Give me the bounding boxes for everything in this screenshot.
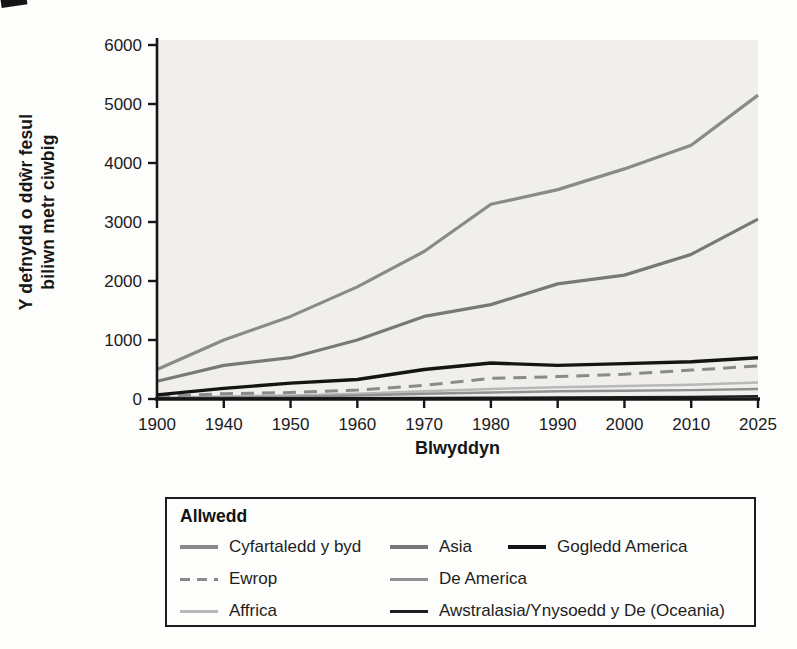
line-swatch-asia — [390, 545, 428, 548]
x-tick-label: 2025 — [739, 415, 777, 434]
x-tick-label: 1950 — [272, 415, 310, 434]
legend-item-asia: Asia — [390, 537, 508, 557]
y-tick-label: 3000 — [104, 213, 142, 232]
legend-label: Affrica — [229, 601, 277, 621]
legend-label: De America — [439, 569, 527, 589]
y-tick-label: 1000 — [104, 331, 142, 350]
line-swatch-cyfartaledd-y-byd — [180, 545, 218, 548]
legend-item-gogledd-america: Gogledd America — [508, 537, 742, 557]
x-tick-label: 2010 — [672, 415, 710, 434]
scanned-figure-page: Y defnydd o ddŵr fesul biliwn metr ciwbi… — [0, 0, 797, 649]
legend-label: Asia — [439, 537, 472, 557]
line-swatch-ewrop — [180, 578, 218, 581]
x-tick-label: 1990 — [539, 415, 577, 434]
line-swatch-awstralasia — [390, 610, 428, 613]
line-swatch-de-america — [390, 578, 428, 581]
legend-label: Cyfartaledd y byd — [229, 537, 361, 557]
legend-grid: Cyfartaledd y byd Asia Gogledd America E… — [180, 534, 742, 624]
legend-label: Awstralasia/Ynysoedd y De (Oceania) — [439, 601, 725, 621]
y-tick-label: 2000 — [104, 272, 142, 291]
legend-item-awstralasia: Awstralasia/Ynysoedd y De (Oceania) — [390, 601, 742, 621]
legend-item-ewrop: Ewrop — [180, 569, 390, 589]
legend-item-de-america: De America — [390, 569, 742, 589]
water-use-line-chart: 0100020003000400050006000190019401950196… — [0, 0, 797, 460]
plot-area — [157, 40, 758, 399]
x-tick-label: 1960 — [338, 415, 376, 434]
legend-label: Ewrop — [229, 569, 277, 589]
line-swatch-affrica — [180, 610, 218, 613]
legend-item-affrica: Affrica — [180, 601, 390, 621]
x-axis-title: Blwyddyn — [157, 438, 758, 459]
x-tick-label: 1940 — [205, 415, 243, 434]
legend-label: Gogledd America — [557, 537, 687, 557]
y-tick-label: 5000 — [104, 95, 142, 114]
x-tick-label: 1970 — [405, 415, 443, 434]
x-tick-label: 1900 — [138, 415, 176, 434]
x-tick-label: 1980 — [472, 415, 510, 434]
y-tick-label: 4000 — [104, 154, 142, 173]
line-swatch-gogledd-america — [508, 545, 546, 548]
legend-item-cyfartaledd-y-byd: Cyfartaledd y byd — [180, 537, 390, 557]
y-tick-label: 6000 — [104, 36, 142, 55]
legend-title: Allwedd — [180, 506, 742, 527]
x-tick-label: 2000 — [606, 415, 644, 434]
y-tick-label: 0 — [133, 390, 142, 409]
legend: Allwedd Cyfartaledd y byd Asia Gogledd A… — [165, 497, 756, 627]
